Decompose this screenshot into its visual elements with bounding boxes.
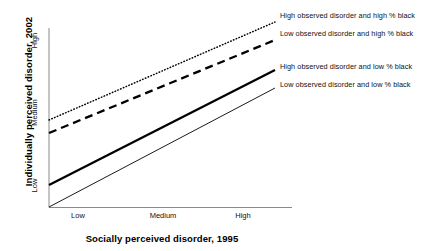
- legend-label-high-observed-low-black: High observed disorder and low % black: [280, 62, 412, 71]
- legend-label-low-observed-low-black: Low observed disorder and low % black: [280, 80, 410, 89]
- chart-figure: Individually perceived disorder, 2002 So…: [0, 0, 434, 251]
- legend-label-low-observed-high-black: Low observed disorder and high % black: [280, 29, 413, 38]
- legend-label-high-observed-high-black: High observed disorder and high % black: [280, 11, 415, 20]
- series-line-high-observed-high-black: [49, 22, 275, 120]
